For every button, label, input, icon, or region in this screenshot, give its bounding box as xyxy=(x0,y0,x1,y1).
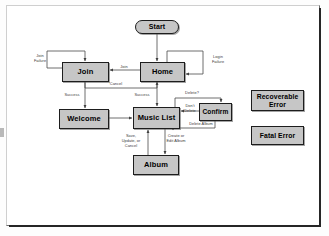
node-confirm[interactable]: Confirm xyxy=(199,103,232,121)
node-welcome[interactable]: Welcome xyxy=(59,109,109,129)
edge-label-login-failure: Login Failure xyxy=(205,55,231,65)
edge-label-delete-album: Delete Album xyxy=(181,122,221,127)
edge-label-delete-question: Delete? xyxy=(179,91,205,96)
edge-label-dont-delete: Don't Delete xyxy=(180,104,200,114)
edge-label-create-or-edit-album: Create or Edit Album xyxy=(159,134,193,144)
document-page-frame: Start Join Home Welcome Music List Confi… xyxy=(6,5,320,226)
node-album[interactable]: Album xyxy=(133,155,179,175)
left-edge-artifact xyxy=(0,128,4,137)
edge-label-cancel: Cancel xyxy=(103,82,129,87)
edge-label-join: Join xyxy=(113,65,135,70)
edge-label-join-welcome-success: Success xyxy=(59,93,85,98)
edge-label-home-music-list-success: Success xyxy=(129,93,155,98)
node-join[interactable]: Join xyxy=(62,62,109,82)
node-start[interactable]: Start xyxy=(135,20,179,34)
node-home[interactable]: Home xyxy=(140,62,185,82)
edge-label-join-failure: Join Failure xyxy=(27,54,53,64)
legend-node-fatal-error[interactable]: Fatal Error xyxy=(251,126,304,145)
state-flow-diagram: Start Join Home Welcome Music List Confi… xyxy=(7,6,321,227)
node-music-list[interactable]: Music List xyxy=(133,107,180,129)
edge-label-save-update-or-cancel: Save, Update, or Cancel xyxy=(115,134,147,148)
screenshot-root: Start Join Home Welcome Music List Confi… xyxy=(0,0,329,236)
legend-node-recoverable-error[interactable]: Recoverable Error xyxy=(251,90,304,111)
